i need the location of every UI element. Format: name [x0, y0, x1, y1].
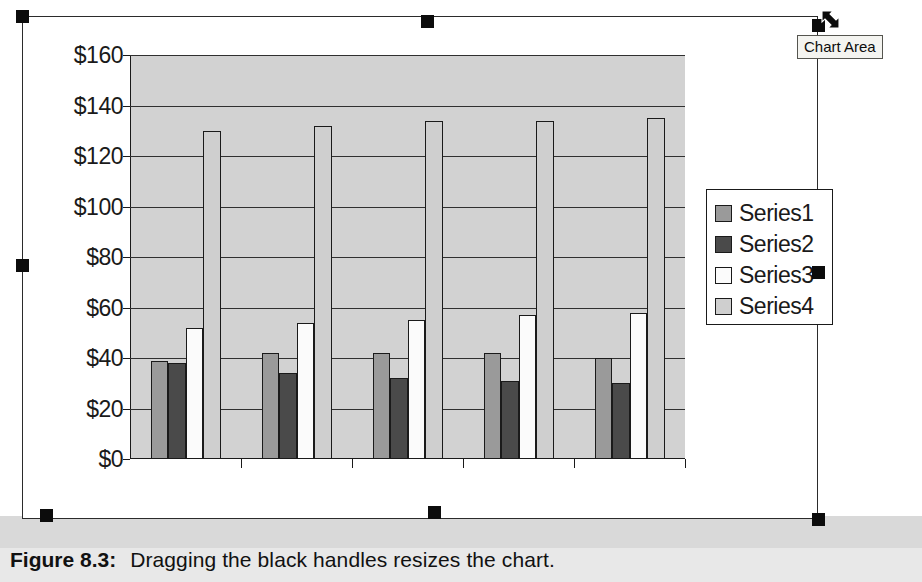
legend-item-label: Series1 [739, 200, 813, 227]
gridline [130, 55, 685, 56]
handle-bottom-left[interactable] [40, 509, 53, 522]
legend-item-label: Series2 [739, 231, 813, 258]
y-axis-tick [123, 308, 130, 309]
x-axis-tick [685, 459, 686, 468]
legend-item-series4[interactable]: Series4 [715, 291, 832, 322]
y-axis-tick [123, 55, 130, 56]
bar-series4-qtr-5[interactable] [314, 126, 332, 459]
bar-series1-qtr-7[interactable] [484, 353, 502, 459]
bar-series1-qtr-6[interactable] [373, 353, 391, 459]
bar-series4-qtr-8[interactable] [647, 118, 665, 459]
handle-middle-left[interactable] [16, 259, 29, 272]
handle-middle-right[interactable] [812, 266, 825, 279]
bar-series3-qtr-4[interactable] [186, 328, 204, 459]
bar-series1-qtr-8[interactable] [595, 358, 613, 459]
legend-item-series2[interactable]: Series2 [715, 229, 832, 260]
y-axis-tick-label: $140 [23, 92, 123, 119]
figure-container: $0$20$40$60$80$100$120$140$160 Qtr 4Qtr … [0, 0, 922, 582]
y-axis-tick [123, 409, 130, 410]
legend-item-series1[interactable]: Series1 [715, 198, 832, 229]
resize-diagonal-cursor-icon [819, 8, 843, 32]
x-axis-tick [241, 459, 242, 468]
bar-series1-qtr-4[interactable] [151, 361, 169, 459]
chart-legend[interactable]: Series1Series2Series3Series4 [706, 189, 833, 325]
y-axis-tick-label: $40 [23, 345, 123, 372]
y-axis-tick-label: $100 [23, 193, 123, 220]
y-axis-labels: $0$20$40$60$80$100$120$140$160 [11, 17, 123, 421]
chart-area[interactable]: $0$20$40$60$80$100$120$140$160 Qtr 4Qtr … [22, 16, 818, 519]
figure-caption-text: Dragging the black handles resizes the c… [130, 548, 555, 571]
chart-area-tooltip: Chart Area [797, 35, 883, 59]
x-axis-tick [463, 459, 464, 468]
legend-item-label: Series3 [739, 262, 813, 289]
y-axis-tick [123, 459, 130, 460]
bar-series2-qtr-6[interactable] [390, 378, 408, 459]
y-axis-tick-label: $80 [23, 244, 123, 271]
x-axis-tick [574, 459, 575, 468]
x-axis-tick [352, 459, 353, 468]
bar-series4-qtr-4[interactable] [203, 131, 221, 459]
handle-bottom-center[interactable] [428, 506, 441, 519]
y-axis-tick [123, 358, 130, 359]
legend-swatch-icon [715, 267, 732, 284]
y-axis-tick-label: $160 [23, 42, 123, 69]
y-axis-tick-label: $60 [23, 294, 123, 321]
bar-series3-qtr-5[interactable] [297, 323, 315, 459]
plot-frame[interactable] [130, 55, 685, 459]
bar-series3-qtr-6[interactable] [408, 320, 426, 459]
bar-series3-qtr-8[interactable] [630, 313, 648, 459]
figure-number: Figure 8.3: [10, 548, 116, 571]
legend-swatch-icon [715, 298, 732, 315]
handle-top-center[interactable] [421, 15, 434, 28]
legend-item-label: Series4 [739, 293, 813, 320]
bar-series2-qtr-4[interactable] [168, 363, 186, 459]
legend-swatch-icon [715, 205, 732, 222]
bar-series4-qtr-6[interactable] [425, 121, 443, 459]
gridline [130, 106, 685, 107]
bar-series2-qtr-5[interactable] [279, 373, 297, 459]
y-axis-tick-label: $120 [23, 143, 123, 170]
figure-caption: Figure 8.3:Dragging the black handles re… [10, 548, 555, 572]
legend-swatch-icon [715, 236, 732, 253]
handle-bottom-right[interactable] [812, 513, 825, 526]
y-axis-tick-label: $0 [23, 446, 123, 473]
y-axis-tick [123, 207, 130, 208]
bar-series1-qtr-5[interactable] [262, 353, 280, 459]
bar-series2-qtr-8[interactable] [612, 383, 630, 459]
bar-series3-qtr-7[interactable] [519, 315, 537, 459]
y-axis-tick [123, 257, 130, 258]
bar-series4-qtr-7[interactable] [536, 121, 554, 459]
y-axis-tick-label: $20 [23, 395, 123, 422]
bar-series2-qtr-7[interactable] [501, 381, 519, 459]
handle-top-left[interactable] [16, 10, 29, 23]
y-axis-tick [123, 156, 130, 157]
y-axis-tick [123, 106, 130, 107]
